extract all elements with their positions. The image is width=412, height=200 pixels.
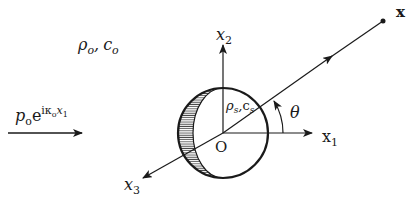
x2-axis-label: x2 (216, 25, 232, 47)
field-direction-line-extension (330, 21, 383, 58)
field-point-label: x (396, 3, 406, 21)
angle-arc (274, 101, 283, 133)
field-direction-line (223, 56, 332, 133)
scattering-diagram: ρo,co poeiκox1 x2 x1 x3 x θ ρs,cs O (0, 0, 412, 200)
x3-axis-label: x3 (124, 175, 140, 197)
origin-label: O (215, 138, 227, 156)
medium-properties-label: ρo,co (77, 35, 119, 57)
incident-wave-label: poeiκox1 (15, 104, 68, 128)
field-point-dot (381, 19, 386, 24)
angle-theta-label: θ (290, 103, 300, 122)
x1-axis-label: x1 (322, 127, 338, 149)
sphere-shading (178, 88, 223, 178)
sphere-properties-label: ρs,cs (225, 98, 255, 115)
